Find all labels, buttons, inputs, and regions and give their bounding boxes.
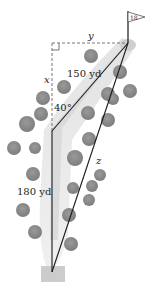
right-angle-marker bbox=[52, 43, 59, 50]
golf-hole-diagram: 18 y x 150 yd 40° z 180 yd bbox=[0, 0, 156, 289]
label-180yd: 180 yd bbox=[17, 186, 52, 197]
bush bbox=[94, 169, 106, 181]
bush bbox=[84, 49, 98, 63]
bush bbox=[34, 107, 48, 121]
bush bbox=[107, 93, 119, 105]
bush bbox=[67, 182, 79, 194]
bush bbox=[16, 203, 30, 217]
bush bbox=[7, 141, 21, 155]
flag-number: 18 bbox=[130, 14, 138, 21]
bush bbox=[101, 113, 115, 127]
bushes bbox=[7, 49, 137, 251]
label-y: y bbox=[87, 30, 94, 41]
bush bbox=[36, 91, 50, 105]
bush bbox=[83, 194, 95, 206]
bush bbox=[57, 80, 71, 94]
bush bbox=[86, 180, 98, 192]
label-z: z bbox=[95, 155, 102, 166]
bush bbox=[28, 225, 42, 239]
label-x: x bbox=[44, 74, 50, 85]
bush bbox=[29, 142, 41, 154]
bush bbox=[64, 237, 78, 251]
label-150yd: 150 yd bbox=[67, 68, 102, 79]
bush bbox=[82, 132, 96, 146]
label-angle: 40° bbox=[54, 102, 72, 113]
bush bbox=[26, 167, 40, 181]
bush bbox=[67, 150, 83, 166]
bush bbox=[123, 84, 137, 98]
bush bbox=[81, 106, 95, 120]
bush bbox=[19, 116, 35, 132]
